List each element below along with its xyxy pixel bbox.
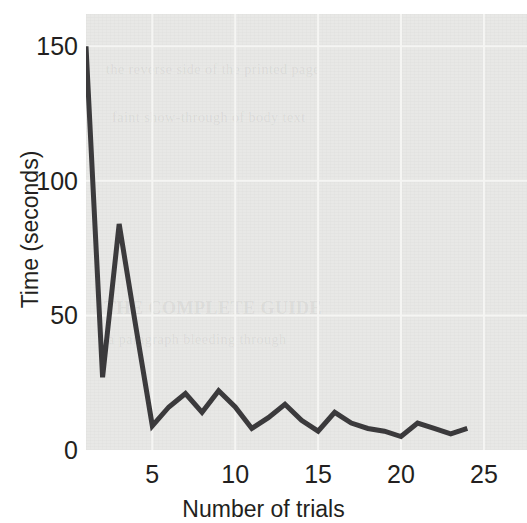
x-tick-label: 5: [122, 462, 182, 487]
plot-area: the reverse side of the printed page fai…: [86, 14, 527, 450]
x-axis-title: Number of trials: [0, 496, 527, 523]
x-tick-label: 10: [205, 462, 265, 487]
x-tick-label: 15: [288, 462, 348, 487]
y-axis-title: Time (seconds): [17, 60, 44, 400]
y-tick-label: 0: [14, 438, 78, 463]
chart-figure: the reverse side of the printed page fai…: [0, 0, 527, 523]
x-tick-label: 25: [454, 462, 514, 487]
y-tick-label: 150: [14, 34, 78, 59]
data-series-line: [86, 14, 527, 450]
x-axis-tick-labels: 510152025: [0, 462, 527, 494]
x-tick-label: 20: [371, 462, 431, 487]
